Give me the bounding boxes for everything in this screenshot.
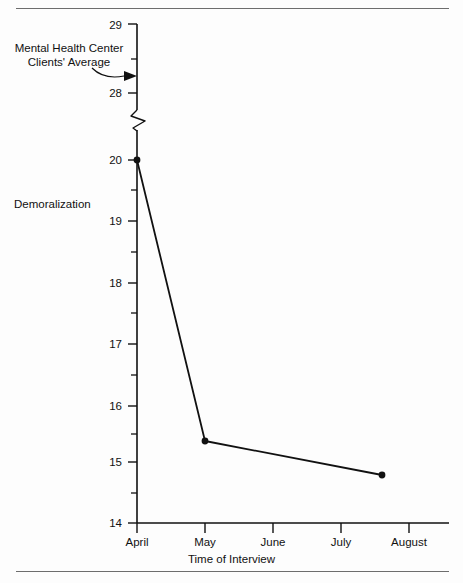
annotation-line-1: Mental Health Center bbox=[8, 41, 130, 55]
y-axis-title: Demoralization bbox=[14, 198, 91, 210]
data-series-line bbox=[137, 160, 382, 475]
y-tick-label-18: 18 bbox=[100, 277, 122, 289]
x-tick-label-august: August bbox=[379, 536, 439, 548]
annotation-line-2: Clients' Average bbox=[8, 55, 130, 69]
annotation-arrow-head bbox=[124, 71, 137, 81]
data-point-april bbox=[134, 157, 141, 164]
y-major-ticks-lower bbox=[128, 160, 137, 523]
y-minor-ticks-lower bbox=[131, 190, 137, 493]
x-major-ticks bbox=[137, 523, 409, 533]
x-tick-label-july: July bbox=[311, 536, 371, 548]
x-tick-label-june: June bbox=[243, 536, 303, 548]
y-tick-label-29: 29 bbox=[100, 19, 122, 31]
y-tick-label-15: 15 bbox=[100, 456, 122, 468]
annotation-arrow-curve bbox=[92, 68, 124, 77]
x-tick-label-april: April bbox=[107, 536, 167, 548]
annotation-label: Mental Health Center Clients' Average bbox=[8, 41, 130, 69]
data-point-late-july bbox=[379, 472, 386, 479]
figure-canvas: Mental Health Center Clients' Average 29… bbox=[0, 0, 463, 583]
y-tick-label-20: 20 bbox=[100, 154, 122, 166]
y-tick-label-17: 17 bbox=[100, 338, 122, 350]
y-tick-label-19: 19 bbox=[100, 215, 122, 227]
y-tick-label-14: 14 bbox=[100, 517, 122, 529]
x-tick-label-may: May bbox=[175, 536, 235, 548]
chart-plot-area bbox=[0, 0, 463, 583]
y-tick-label-28: 28 bbox=[100, 87, 122, 99]
y-tick-label-16: 16 bbox=[100, 400, 122, 412]
axis-break-zigzag bbox=[131, 110, 145, 131]
x-axis-title: Time of Interview bbox=[0, 553, 463, 565]
data-point-may bbox=[202, 438, 209, 445]
